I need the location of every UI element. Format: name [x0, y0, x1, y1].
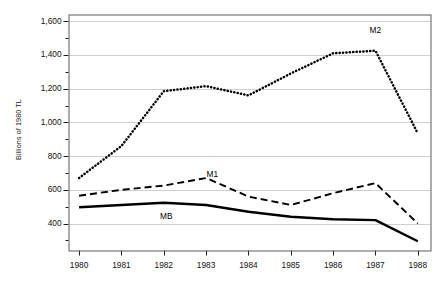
y-tick-label: 600 [48, 184, 62, 194]
x-tick-label: 1987 [355, 260, 395, 270]
x-tick-label: 1983 [186, 260, 226, 270]
series-label-m1: M1 [207, 169, 219, 179]
x-tick-label: 1980 [59, 260, 99, 270]
y-tick-label: 1,600 [41, 16, 62, 26]
x-tick-label: 1986 [313, 260, 353, 270]
y-tick-label: 1,400 [41, 49, 62, 59]
x-tick-label: 1981 [101, 260, 141, 270]
minor-ticks-group [66, 39, 69, 241]
chart-figure: Billions of 1980 TL 1,6001,4001,2001,000… [0, 0, 438, 284]
line-chart-plot [0, 0, 438, 284]
data-series-group [79, 51, 418, 241]
series-label-mb: MB [160, 211, 172, 221]
y-tick-label: 400 [48, 218, 62, 228]
y-tick-label: 1,000 [41, 117, 62, 127]
x-tick-label: 1982 [144, 260, 184, 270]
series-label-m2: M2 [370, 25, 382, 35]
plot-frame [69, 15, 431, 251]
x-tick-label: 1984 [228, 260, 268, 270]
series-line-m1 [79, 178, 418, 224]
y-tick-label: 800 [48, 151, 62, 161]
major-y-ticks-group [64, 22, 69, 225]
x-tick-label: 1985 [271, 260, 311, 270]
series-line-m2 [79, 51, 418, 178]
y-axis-title: Billions of 1980 TL [14, 99, 23, 160]
y-tick-label: 1,200 [41, 83, 62, 93]
series-line-mb [79, 203, 418, 241]
x-tick-label: 1988 [398, 260, 438, 270]
